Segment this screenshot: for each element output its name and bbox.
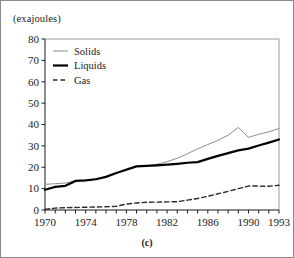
y-tick-label: 10 <box>28 182 40 194</box>
legend-label-liquids: Liquids <box>74 60 106 71</box>
series-layer <box>45 127 279 209</box>
y-tick-label: 80 <box>28 33 40 45</box>
x-tick-label: 1982 <box>156 216 178 228</box>
x-tick-label: 1993 <box>268 216 291 228</box>
x-tick-label: 1978 <box>115 216 138 228</box>
y-tick-label: 60 <box>28 76 40 88</box>
series-line-liquids <box>45 139 279 189</box>
series-line-solids <box>45 127 279 184</box>
x-tick-label: 1974 <box>75 216 98 228</box>
y-tick-label: 50 <box>28 97 40 109</box>
x-tick-label: 1990 <box>237 216 260 228</box>
y-tick-label: 30 <box>28 140 40 152</box>
x-tick-label: 1970 <box>34 216 57 228</box>
legend-label-solids: Solids <box>74 46 100 57</box>
y-tick-label: 20 <box>28 161 40 173</box>
chart-canvas: 0102030405060708019701974197819821986199… <box>1 1 294 258</box>
legend-label-gas: Gas <box>74 75 90 86</box>
y-tick-label: 70 <box>28 54 40 66</box>
y-tick-label: 40 <box>28 118 40 130</box>
x-tick-label: 1986 <box>197 216 220 228</box>
legend-layer: SolidsLiquidsGas <box>53 46 106 86</box>
y-tick-label: 0 <box>34 204 40 216</box>
figure-caption: (c) <box>1 237 293 248</box>
tick-label-layer: 0102030405060708019701974197819821986199… <box>28 33 291 228</box>
figure-panel: (exajoules) 0102030405060708019701974197… <box>0 0 294 258</box>
series-line-gas <box>45 185 279 209</box>
